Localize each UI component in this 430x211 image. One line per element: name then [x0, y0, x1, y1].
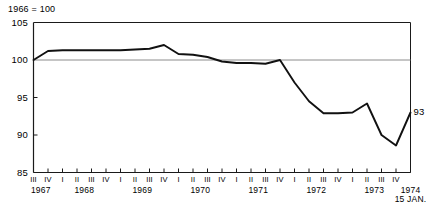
- y-axis-tick-label: 85: [4, 167, 28, 178]
- x-axis-year-label: 1971: [238, 185, 278, 195]
- x-axis-year-label: 1967: [21, 185, 61, 195]
- x-axis-year-label: 1968: [64, 185, 104, 195]
- x-axis-end-date-label: 15 JAN.: [388, 194, 430, 204]
- end-value-annotation: 93: [414, 106, 425, 117]
- index-line-chart: 1966 = 100 859095100105IIIIVIIIIIIIVIIII…: [0, 0, 430, 211]
- y-axis-tick-label: 90: [4, 129, 28, 140]
- x-axis-year-label: 1969: [122, 185, 162, 195]
- y-axis-tick-label: 100: [4, 54, 28, 65]
- y-axis-tick-label: 95: [4, 92, 28, 103]
- x-axis-year-label: 1970: [180, 185, 220, 195]
- y-axis-tick-label: 105: [4, 17, 28, 28]
- x-axis-year-label: 1972: [296, 185, 336, 195]
- x-axis-quarter-label: IV: [388, 175, 404, 184]
